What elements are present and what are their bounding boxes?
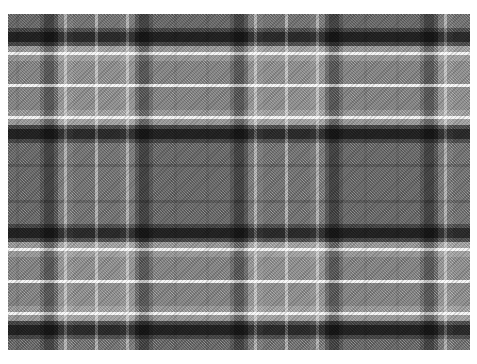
image-canvas xyxy=(0,0,477,364)
tartan-swatch xyxy=(8,14,470,350)
warp-stripe-layer xyxy=(8,14,470,350)
twill-weave-texture xyxy=(8,14,470,350)
weave-grain-overlay xyxy=(8,14,470,350)
weft-crossing-ink-layer xyxy=(8,14,470,350)
fabric-ground-layer xyxy=(8,14,470,350)
weft-stripe-layer xyxy=(8,14,470,350)
